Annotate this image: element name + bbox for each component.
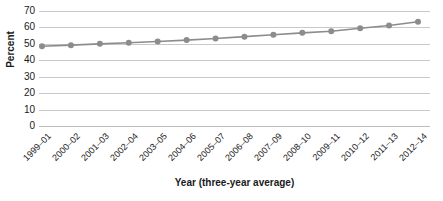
y-axis-tick-label: 50 <box>24 39 35 49</box>
y-axis-tick-label: 0 <box>29 121 35 131</box>
y-axis-tick-labels: 010203040506070 <box>0 0 38 201</box>
data-point-marker <box>97 41 103 47</box>
data-point-marker <box>241 34 247 40</box>
data-point-marker <box>328 28 334 34</box>
y-axis-tick-label: 70 <box>24 6 35 16</box>
data-point-marker <box>155 39 161 45</box>
x-axis-title: Year (three-year average) <box>39 177 430 188</box>
data-point-marker <box>126 40 132 46</box>
data-point-marker <box>270 32 276 38</box>
data-point-marker <box>68 42 74 48</box>
x-axis-tick-labels: 1999–012000–022001–032002–042003–052004–… <box>39 127 430 172</box>
y-axis-tick-label: 60 <box>24 22 35 32</box>
plot-area <box>39 0 430 127</box>
y-axis-tick-label: 20 <box>24 88 35 98</box>
data-point-marker <box>415 19 421 25</box>
data-point-marker <box>386 22 392 28</box>
data-point-marker <box>299 30 305 36</box>
y-axis-tick-label: 10 <box>24 105 35 115</box>
y-axis-tick-label: 30 <box>24 72 35 82</box>
data-point-marker <box>184 37 190 43</box>
series-layer <box>39 0 430 127</box>
line-chart: Percent 010203040506070 1999–012000–0220… <box>0 0 443 201</box>
data-point-marker <box>357 25 363 31</box>
data-point-marker <box>213 35 219 41</box>
data-point-marker <box>39 43 45 49</box>
y-axis-tick-label: 40 <box>24 55 35 65</box>
